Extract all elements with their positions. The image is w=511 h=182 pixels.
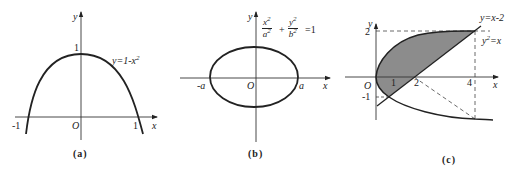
panel-c-caption: (c) bbox=[442, 154, 456, 165]
panel-c-parabola-label: y2=x bbox=[482, 36, 501, 46]
panel-a-y-axis-label: y bbox=[73, 12, 77, 22]
figure-three-panel-diagram: y 1 y=1-x2 -1 O 1 x (a) y x2 a2 + y2 b2 … bbox=[0, 0, 511, 182]
panel-a-curve-label-text: y=1-x bbox=[112, 55, 136, 66]
panel-a-origin-label: O bbox=[72, 121, 79, 131]
panel-a-x-axis-label: x bbox=[152, 121, 156, 131]
panel-c bbox=[345, 24, 498, 120]
panel-b-origin-label: O bbox=[247, 81, 254, 91]
panel-c-x-tick-4: 4 bbox=[467, 78, 472, 88]
panel-a-curve-label-exp: 2 bbox=[136, 54, 140, 62]
panel-b-frac-y: y2 b2 bbox=[288, 18, 298, 39]
panel-b-x-tick-a: a bbox=[299, 81, 304, 91]
panel-c-x-axis-label: x bbox=[493, 80, 497, 90]
panel-c-x-tick-2: 2 bbox=[414, 78, 419, 88]
panel-c-x-tick-1: 1 bbox=[391, 78, 396, 88]
panel-c-y-tick-2: 2 bbox=[365, 27, 370, 37]
panel-b-x-tick-neg-a: -a bbox=[197, 81, 205, 91]
panel-b-y-axis-label: y bbox=[248, 12, 252, 22]
panel-b-ellipse-curve bbox=[210, 47, 298, 107]
panel-b-plus: + bbox=[279, 25, 285, 35]
panel-a-parabola-curve bbox=[26, 54, 143, 134]
frac-x-den-exp: 2 bbox=[267, 27, 271, 35]
panel-a-y-tick-1: 1 bbox=[74, 43, 79, 53]
panel-c-y-tick-neg1: -1 bbox=[362, 92, 370, 102]
panel-c-origin-label: O bbox=[364, 81, 371, 91]
panel-b-x-axis-label: x bbox=[323, 81, 327, 91]
panel-a-x-tick-1: 1 bbox=[133, 121, 138, 131]
frac-y-num-exp: 2 bbox=[293, 15, 297, 23]
panel-b-equals-one: =1 bbox=[305, 25, 316, 35]
panel-c-parabola-label-rest: =x bbox=[490, 35, 501, 46]
panel-c-dashed-diagonal bbox=[414, 77, 475, 119]
panel-b-caption: (b) bbox=[248, 148, 263, 159]
panel-b-frac-x: x2 a2 bbox=[262, 18, 272, 39]
panel-a-x-tick-neg1: -1 bbox=[12, 121, 20, 131]
frac-y-den-exp: 2 bbox=[293, 27, 297, 35]
panel-a-caption: (a) bbox=[73, 148, 88, 159]
panel-c-line-label: y=x-2 bbox=[480, 13, 504, 23]
panel-a-curve-label: y=1-x2 bbox=[112, 56, 139, 66]
frac-x-num-exp: 2 bbox=[267, 15, 271, 23]
